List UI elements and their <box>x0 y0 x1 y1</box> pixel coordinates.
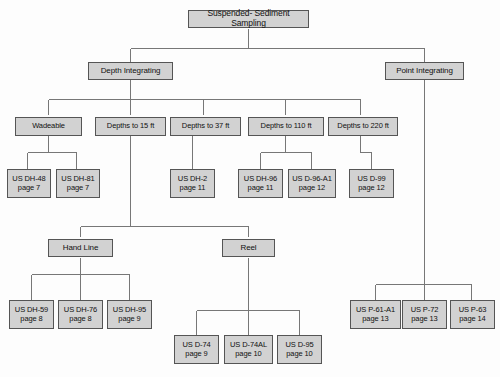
node-depths-37-label: Depths to 37 ft <box>182 122 229 130</box>
node-reel[interactable]: Reel <box>222 239 275 257</box>
node-us-d-95[interactable]: US D-95 page 10 <box>277 335 322 364</box>
node-depth-integrating[interactable]: Depth Integrating <box>88 62 173 80</box>
node-wadeable[interactable]: Wadeable <box>15 117 82 136</box>
flowchart-canvas: Suspended- Sediment Sampling Depth Integ… <box>0 0 500 377</box>
node-us-dh-2-page: page 11 <box>180 184 206 192</box>
node-root-label: Suspended- Sediment Sampling <box>189 9 308 28</box>
node-us-p-63[interactable]: US P-63 page 14 <box>450 300 495 329</box>
node-depth-integrating-label: Depth Integrating <box>101 67 161 76</box>
node-us-p-72[interactable]: US P-72 page 13 <box>402 300 447 329</box>
node-us-dh-2[interactable]: US DH-2 page 11 <box>170 169 215 198</box>
node-us-d-96-a1-page: page 12 <box>299 184 325 192</box>
node-depths-15[interactable]: Depths to 15 ft <box>95 117 166 136</box>
node-us-d-74[interactable]: US D-74 page 9 <box>174 335 219 364</box>
node-hand-line[interactable]: Hand Line <box>48 239 113 257</box>
node-us-p-61-a1-page: page 13 <box>362 315 388 323</box>
node-us-dh-59[interactable]: US DH-59 page 8 <box>9 300 54 329</box>
node-us-d-95-page: page 10 <box>286 350 312 358</box>
node-depths-110[interactable]: Depths to 110 ft <box>248 117 324 136</box>
node-point-integrating-label: Point Integrating <box>396 67 453 76</box>
node-us-dh-81[interactable]: US DH-81 page 7 <box>56 169 100 198</box>
node-us-dh-96[interactable]: US DH-96 page 11 <box>238 169 283 198</box>
node-us-d-99[interactable]: US D-99 page 12 <box>349 169 394 198</box>
node-us-dh-76-page: page 8 <box>69 315 91 323</box>
node-point-integrating[interactable]: Point Integrating <box>385 62 464 80</box>
node-depths-220-label: Depths to 220 ft <box>337 122 388 130</box>
node-us-dh-48-page: page 7 <box>18 184 40 192</box>
node-depths-37[interactable]: Depths to 37 ft <box>170 117 241 136</box>
node-us-d-74al[interactable]: US D-74AL page 10 <box>224 335 273 364</box>
node-wadeable-label: Wadeable <box>32 122 65 130</box>
node-depths-110-label: Depths to 110 ft <box>261 122 312 130</box>
node-us-dh-81-page: page 7 <box>67 184 89 192</box>
node-us-p-72-page: page 13 <box>411 315 437 323</box>
node-depths-15-label: Depths to 15 ft <box>107 122 154 130</box>
node-us-dh-59-page: page 8 <box>20 315 42 323</box>
node-root[interactable]: Suspended- Sediment Sampling <box>188 10 309 28</box>
node-us-p-61-a1[interactable]: US P-61-A1 page 13 <box>350 300 401 329</box>
node-depths-220[interactable]: Depths to 220 ft <box>328 117 398 136</box>
node-us-dh-96-page: page 11 <box>248 184 274 192</box>
node-hand-line-label: Hand Line <box>63 244 99 253</box>
node-us-d-74-page: page 9 <box>185 350 207 358</box>
node-us-dh-95-page: page 9 <box>118 315 140 323</box>
node-us-p-63-page: page 14 <box>459 315 485 323</box>
node-us-d-99-page: page 12 <box>358 184 384 192</box>
node-reel-label: Reel <box>240 244 256 253</box>
node-us-dh-95[interactable]: US DH-95 page 9 <box>107 300 152 329</box>
node-us-dh-76[interactable]: US DH-76 page 8 <box>58 300 103 329</box>
node-us-dh-48[interactable]: US DH-48 page 7 <box>7 169 51 198</box>
node-us-d-74al-page: page 10 <box>235 350 261 358</box>
node-us-d-96-a1[interactable]: US D-96-A1 page 12 <box>288 169 336 198</box>
